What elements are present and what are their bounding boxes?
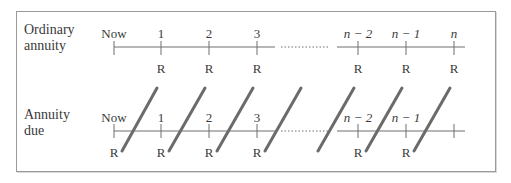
ordinary-payment-labels: R R R R R R — [157, 61, 459, 76]
payment-label: R — [253, 145, 262, 160]
shift-arrow-icon — [265, 88, 301, 151]
shift-arrow-icon — [217, 88, 253, 151]
ordinary-timeline — [114, 41, 465, 55]
payment-label: R — [110, 145, 119, 160]
due-tick-labels: Now 1 2 3 n − 2 n − 1 — [101, 110, 420, 125]
payment-label: R — [157, 61, 166, 76]
due-tick-label: 1 — [158, 110, 165, 125]
ordinary-tick-label: n — [451, 26, 458, 41]
ordinary-tick-label: Now — [101, 26, 127, 41]
ordinary-tick-labels: Now 1 2 3 n − 2 n − 1 n — [101, 26, 457, 41]
due-tick-label: Now — [101, 110, 127, 125]
payment-label: R — [354, 61, 363, 76]
ordinary-tick-label: n − 1 — [392, 26, 420, 41]
payment-label: R — [205, 145, 214, 160]
ordinary-tick-label: 1 — [158, 26, 165, 41]
payment-label: R — [402, 61, 411, 76]
due-payment-labels: R R R R R R — [110, 145, 411, 160]
due-tick-label: 2 — [206, 110, 213, 125]
due-tick-label: n − 2 — [344, 110, 373, 125]
shift-arrow-icon — [169, 88, 205, 151]
payment-label: R — [253, 61, 262, 76]
due-timeline — [114, 124, 465, 138]
payment-label: R — [402, 145, 411, 160]
annuity-timeline-diagram: Now 1 2 3 n − 2 n − 1 n R R R R R R — [0, 0, 511, 183]
shift-arrow-icon — [122, 88, 157, 151]
payment-label: R — [450, 61, 459, 76]
payment-label: R — [354, 145, 363, 160]
ordinary-tick-label: 2 — [206, 26, 213, 41]
payment-label: R — [157, 145, 166, 160]
due-tick-label: 3 — [254, 110, 261, 125]
due-tick-label: n − 1 — [392, 110, 420, 125]
ordinary-tick-label: 3 — [254, 26, 261, 41]
payment-label: R — [205, 61, 214, 76]
ordinary-tick-label: n − 2 — [344, 26, 373, 41]
